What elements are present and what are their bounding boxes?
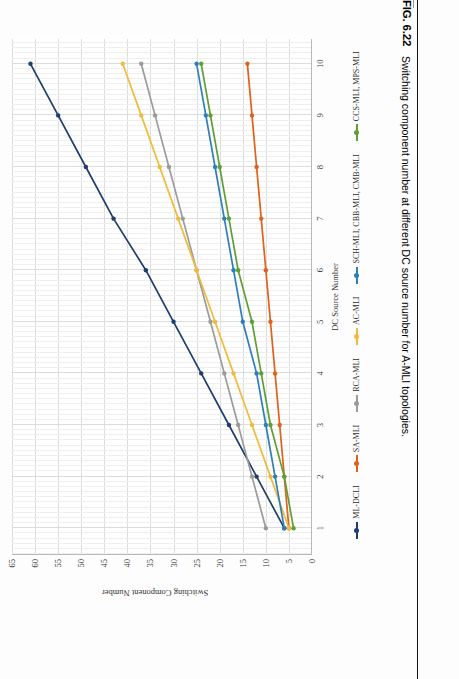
legend-label: ML-DCLI — [352, 485, 361, 518]
series-data-point — [208, 113, 212, 117]
series-data-point — [56, 113, 60, 117]
x-axis-tick-label: 2 — [315, 474, 325, 478]
series-data-point — [176, 216, 180, 220]
chart-figure: 0510152025303540455055606512345678910 DC… — [0, 1, 408, 617]
series-data-point — [273, 371, 277, 375]
series-data-point — [167, 165, 171, 169]
series-data-point — [121, 62, 125, 66]
caption-divider — [417, 0, 418, 679]
series-data-point — [264, 423, 268, 427]
y-axis-title: Switching Component Number — [65, 588, 245, 598]
chart-plot-wrapper: 0510152025303540455055606512345678910 DC… — [0, 1, 372, 617]
x-axis-tick-label: 3 — [315, 423, 325, 427]
series-data-point — [231, 371, 235, 375]
series-data-point — [245, 62, 249, 66]
x-axis-tick-label: 4 — [315, 371, 325, 375]
figure-caption-block: FIG. 6.22 Switching component number at … — [378, 0, 418, 679]
series-data-point — [250, 113, 254, 117]
series-data-point — [111, 216, 115, 220]
series-data-point — [250, 320, 254, 324]
y-axis-tick-label: 5 — [284, 559, 294, 563]
y-axis-tick-label: 65 — [7, 559, 17, 568]
legend-item[interactable]: SA-MLI — [352, 425, 361, 473]
series-data-point — [264, 526, 268, 530]
y-axis-tick-label: 25 — [192, 559, 202, 568]
series-data-point — [268, 423, 272, 427]
series-data-point — [171, 320, 175, 324]
figure-page: 0510152025303540455055606512345678910 DC… — [0, 0, 459, 679]
series-data-point — [217, 165, 221, 169]
series-data-point — [194, 62, 198, 66]
series-data-point — [181, 216, 185, 220]
y-axis-tick-label: 10 — [261, 559, 271, 568]
series-data-point — [227, 216, 231, 220]
series-data-point — [282, 526, 286, 530]
series-data-point — [208, 320, 212, 324]
series-data-point — [277, 423, 281, 427]
series-data-point — [28, 62, 32, 66]
legend-marker-icon — [352, 455, 361, 472]
legend-label: RCA-MLI — [352, 358, 361, 392]
legend-label: AC-MLI — [352, 297, 361, 325]
series-data-point — [250, 423, 254, 427]
series-data-point — [264, 268, 268, 272]
legend-marker-icon — [352, 267, 361, 284]
x-axis-tick-label: 8 — [315, 165, 325, 169]
legend-item[interactable]: AC-MLI — [352, 297, 361, 345]
series-data-point — [273, 474, 277, 478]
x-axis-tick-label: 1 — [315, 526, 325, 530]
series-line — [123, 64, 289, 528]
series-data-point — [144, 268, 148, 272]
y-axis-tick-label: 35 — [145, 559, 155, 568]
series-data-point — [139, 62, 143, 66]
legend-label: SCH-MLI, CBB-MLI, CMB-MLI — [352, 154, 361, 263]
y-axis-tick-label: 0 — [307, 559, 317, 563]
y-axis-tick-label: 20 — [215, 559, 225, 568]
series-data-point — [268, 474, 272, 478]
legend-item[interactable]: ML-DCLI — [352, 485, 361, 538]
series-data-point — [241, 320, 245, 324]
series-data-point — [194, 268, 198, 272]
x-axis-tick-label: 7 — [315, 216, 325, 220]
legend-item[interactable]: SCH-MLI, CBB-MLI, CMB-MLI — [352, 154, 361, 283]
legend-label: SA-MLI — [352, 425, 361, 453]
y-axis-tick-label: 45 — [99, 559, 109, 568]
series-data-point — [222, 216, 226, 220]
series-data-point — [153, 113, 157, 117]
legend-item[interactable]: RCA-MLI — [352, 358, 361, 412]
figure-number-label: FIG. 6.22 — [401, 0, 413, 46]
series-data-point — [227, 423, 231, 427]
x-axis-tick-label: 10 — [315, 60, 325, 69]
series-line — [247, 64, 289, 528]
series-data-point — [268, 320, 272, 324]
y-axis-tick-label: 55 — [53, 559, 63, 568]
series-data-point — [231, 268, 235, 272]
series-data-point — [291, 526, 295, 530]
x-axis-title: DC Source Number — [330, 39, 340, 555]
legend-marker-icon — [352, 328, 361, 345]
y-axis-tick-label: 40 — [122, 559, 132, 568]
series-data-point — [157, 165, 161, 169]
legend-marker-icon — [352, 522, 361, 539]
legend-marker-icon — [352, 395, 361, 412]
series-data-point — [282, 474, 286, 478]
legend-label: CCS-MLI, MPS-MLI — [352, 51, 361, 121]
series-data-point — [254, 474, 258, 478]
series-line — [30, 64, 284, 528]
x-axis-tick-label: 5 — [315, 320, 325, 324]
x-axis-tick-label: 9 — [315, 113, 325, 117]
legend-item[interactable]: CCS-MLI, MPS-MLI — [352, 51, 361, 141]
series-data-point — [236, 423, 240, 427]
series-data-point — [213, 165, 217, 169]
series-data-point — [84, 165, 88, 169]
y-axis-tick-label: 15 — [238, 559, 248, 568]
y-axis-tick-label: 50 — [76, 559, 86, 568]
series-data-point — [199, 62, 203, 66]
x-axis-tick-label: 6 — [315, 268, 325, 272]
series-data-point — [250, 474, 254, 478]
series-data-point — [199, 371, 203, 375]
series-data-point — [222, 371, 226, 375]
series-data-point — [259, 216, 263, 220]
figure-caption-text: Switching component number at different … — [400, 56, 412, 437]
y-axis-tick-label: 30 — [169, 559, 179, 568]
